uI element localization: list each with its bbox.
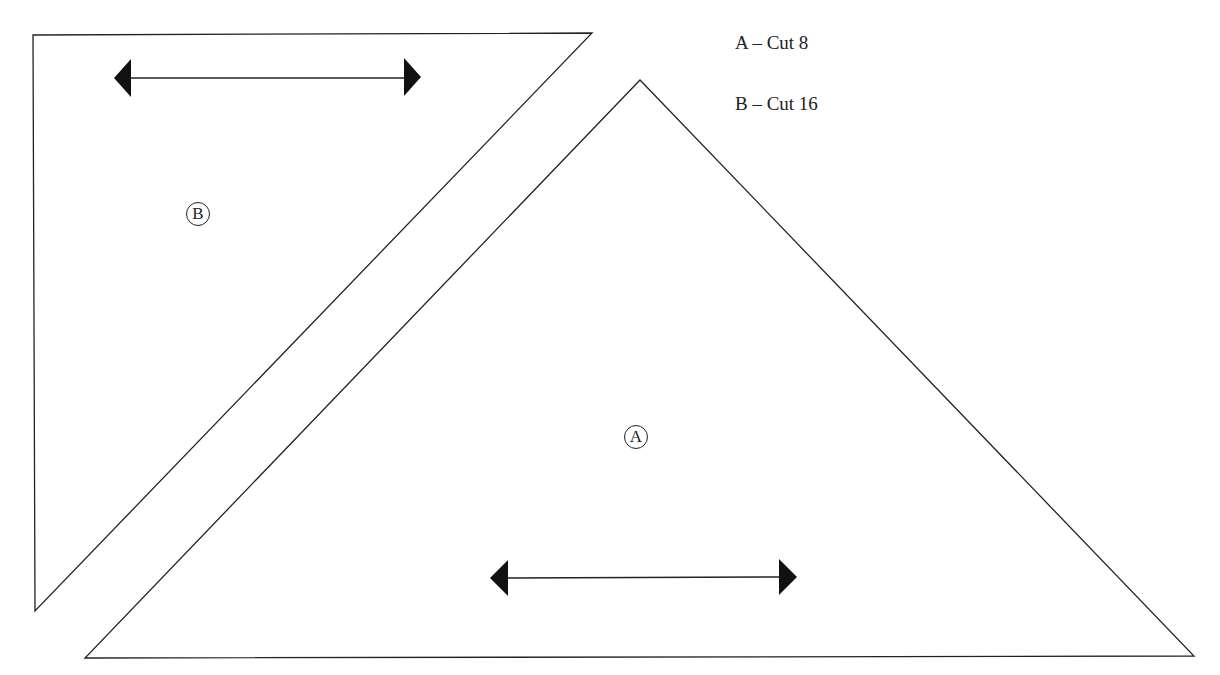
piece-b-label: B [186,202,210,226]
piece-b-grainline-arrow-icon [114,58,421,97]
legend-cut-a: A – Cut 8 [735,32,808,54]
legend-cut-b: B – Cut 16 [735,93,818,115]
piece-a-grainline-arrow-icon [490,559,797,596]
pattern-canvas [0,0,1220,675]
piece-b-outline [33,33,592,611]
piece-a-outline [85,80,1194,658]
piece-a-label: A [624,425,648,449]
